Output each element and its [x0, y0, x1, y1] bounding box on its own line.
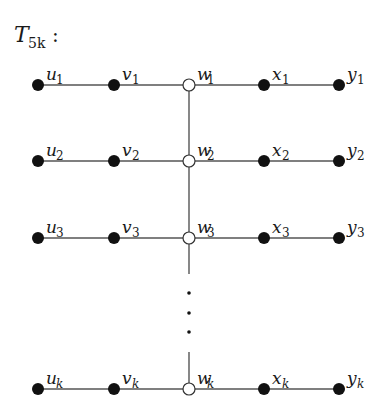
label-y-3: y3 — [346, 217, 365, 240]
svg-text:y: y — [346, 64, 357, 84]
svg-text:1: 1 — [56, 73, 64, 87]
diagram-title: T 5k : — [14, 22, 59, 51]
svg-text:2: 2 — [207, 149, 215, 163]
label-w-2: w2 — [197, 140, 215, 163]
label-x-2: x2 — [272, 140, 290, 163]
label-u-1: u1 — [46, 64, 64, 87]
svg-text:v: v — [122, 64, 132, 84]
svg-text:2: 2 — [282, 149, 290, 163]
node-v-3 — [108, 232, 120, 244]
label-v-k: vk — [122, 368, 139, 391]
node-labels: u1v1w1x1y1u2v2w2x2y2u3v3w3x3y3ukvkwkxkyk — [46, 64, 365, 391]
node-u-1 — [32, 79, 44, 91]
node-w-k — [183, 383, 195, 395]
label-x-3: x3 — [272, 217, 290, 240]
label-x-1: x1 — [272, 64, 290, 87]
svg-text:x: x — [272, 217, 282, 237]
svg-text:v: v — [122, 217, 132, 237]
label-v-3: v3 — [122, 217, 140, 240]
label-y-k: yk — [346, 368, 364, 391]
ellipsis-dot — [187, 311, 191, 315]
svg-text:v: v — [122, 368, 132, 388]
node-u-3 — [32, 232, 44, 244]
svg-text:1: 1 — [132, 73, 140, 87]
node-x-1 — [258, 79, 270, 91]
svg-text:y: y — [346, 140, 357, 160]
svg-text:y: y — [346, 217, 357, 237]
svg-text:3: 3 — [132, 226, 140, 240]
label-u-k: uk — [46, 368, 63, 391]
node-x-3 — [258, 232, 270, 244]
node-y-2 — [333, 155, 345, 167]
label-y-2: y2 — [346, 140, 365, 163]
svg-text:2: 2 — [56, 149, 64, 163]
node-w-3 — [183, 232, 195, 244]
node-y-3 — [333, 232, 345, 244]
svg-text:x: x — [272, 368, 282, 388]
node-x-2 — [258, 155, 270, 167]
svg-text:1: 1 — [207, 73, 215, 87]
node-v-1 — [108, 79, 120, 91]
svg-text:v: v — [122, 140, 132, 160]
label-v-2: v2 — [122, 140, 140, 163]
label-w-3: w3 — [197, 217, 215, 240]
svg-text:3: 3 — [357, 226, 365, 240]
svg-text:x: x — [272, 140, 282, 160]
node-v-2 — [108, 155, 120, 167]
label-y-1: y1 — [346, 64, 365, 87]
svg-text:k: k — [207, 377, 214, 391]
svg-text:3: 3 — [56, 226, 64, 240]
svg-text:k: k — [132, 377, 139, 391]
svg-text:k: k — [282, 377, 289, 391]
svg-text:3: 3 — [282, 226, 290, 240]
label-u-2: u2 — [46, 140, 64, 163]
node-u-2 — [32, 155, 44, 167]
svg-text:k: k — [357, 377, 364, 391]
ellipsis-dot — [187, 291, 191, 295]
label-u-3: u3 — [46, 217, 64, 240]
node-w-2 — [183, 155, 195, 167]
svg-text:1: 1 — [282, 73, 290, 87]
label-w-1: w1 — [197, 64, 215, 87]
label-x-k: xk — [272, 368, 289, 391]
svg-text:3: 3 — [207, 226, 215, 240]
svg-text:1: 1 — [357, 73, 365, 87]
ellipsis-dot — [187, 330, 191, 334]
label-v-1: v1 — [122, 64, 140, 87]
svg-text:k: k — [56, 377, 63, 391]
svg-text:y: y — [346, 368, 357, 388]
node-w-1 — [183, 79, 195, 91]
svg-text:2: 2 — [357, 149, 365, 163]
svg-text:x: x — [272, 64, 282, 84]
graph-diagram: T 5k : u1v1w1x1y1u2v2w2x2y2u3v3w3x3y3ukv… — [0, 0, 383, 420]
node-y-k — [333, 383, 345, 395]
node-v-k — [108, 383, 120, 395]
svg-text:2: 2 — [132, 149, 140, 163]
title-colon: : — [52, 23, 59, 47]
node-y-1 — [333, 79, 345, 91]
node-u-k — [32, 383, 44, 395]
title-subscript: 5k — [28, 35, 46, 51]
node-x-k — [258, 383, 270, 395]
label-w-k: wk — [197, 368, 214, 391]
